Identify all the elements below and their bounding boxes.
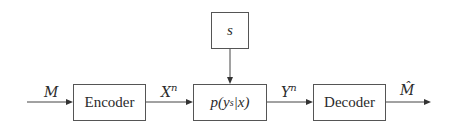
- edge-label-xn-sup: n: [171, 82, 177, 93]
- edge-label-yn-sup: n: [290, 82, 296, 93]
- decoder-label: Decoder: [314, 85, 385, 120]
- edge-label-yn: Yn: [281, 82, 297, 100]
- channel-label-var: y: [223, 94, 230, 111]
- channel-label-suffix: |x): [234, 94, 250, 111]
- edge-label-yn-base: Y: [281, 84, 290, 100]
- edge-label-m-hat: M̂: [400, 82, 414, 98]
- arrowhead-output: [424, 99, 431, 105]
- arrowhead-state: [227, 77, 233, 84]
- edge-label-xn: Xn: [161, 82, 177, 100]
- arrowhead-yn: [306, 99, 313, 105]
- channel-label: p(ys|x): [194, 85, 266, 120]
- arrowhead-xn: [186, 99, 193, 105]
- arrowhead-input: [66, 99, 73, 105]
- state-label: s: [212, 13, 248, 48]
- encoder-label: Encoder: [74, 85, 145, 120]
- edge-label-xn-base: X: [161, 84, 171, 100]
- edge-label-m: M: [44, 84, 58, 100]
- channel-label-prefix: p(: [211, 94, 224, 111]
